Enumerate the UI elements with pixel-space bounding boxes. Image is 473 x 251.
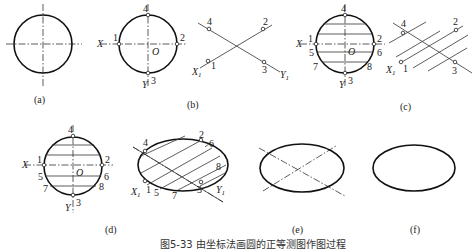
svg-text:1: 1 bbox=[113, 32, 118, 43]
svg-text:5: 5 bbox=[38, 171, 43, 182]
svg-text:5: 5 bbox=[154, 187, 159, 198]
panel-label-a: (a) bbox=[34, 94, 45, 106]
svg-text:X1: X1 bbox=[130, 186, 141, 199]
panel-d-circle: X 1 2 4 3 5 6 7 8 O Y (d) bbox=[21, 124, 117, 236]
panel-label-d: (d) bbox=[105, 224, 117, 236]
svg-text:3: 3 bbox=[197, 184, 202, 195]
svg-text:6: 6 bbox=[209, 138, 214, 149]
panel-label-e: (e) bbox=[292, 224, 303, 236]
svg-text:X: X bbox=[96, 38, 104, 49]
svg-text:4: 4 bbox=[143, 137, 148, 148]
figure-caption: 图5-33 由坐标法画圆的正等测图作图过程 bbox=[160, 236, 346, 251]
svg-text:6: 6 bbox=[377, 47, 382, 58]
svg-text:3: 3 bbox=[76, 197, 81, 208]
svg-text:3: 3 bbox=[151, 75, 156, 86]
svg-text:2: 2 bbox=[377, 33, 382, 44]
svg-text:1: 1 bbox=[37, 154, 42, 165]
svg-text:6: 6 bbox=[104, 171, 109, 182]
svg-text:4: 4 bbox=[68, 124, 73, 135]
panel-c-axes: 4 2 1 3 X1 (c) bbox=[385, 16, 472, 113]
svg-text:4: 4 bbox=[401, 18, 406, 29]
svg-text:Y1: Y1 bbox=[280, 69, 289, 82]
svg-text:X: X bbox=[21, 159, 29, 170]
svg-text:3: 3 bbox=[262, 64, 267, 75]
svg-text:2: 2 bbox=[105, 154, 110, 165]
svg-text:2: 2 bbox=[199, 129, 204, 140]
svg-text:Y: Y bbox=[65, 202, 72, 213]
panel-b-axes: 4 2 1 3 X1 Y1 (b) bbox=[187, 16, 289, 111]
svg-text:4: 4 bbox=[143, 3, 148, 14]
svg-text:3: 3 bbox=[348, 75, 353, 86]
svg-text:7: 7 bbox=[172, 190, 177, 201]
svg-text:1: 1 bbox=[211, 60, 216, 71]
svg-text:1: 1 bbox=[146, 184, 151, 195]
svg-text:7: 7 bbox=[43, 183, 48, 194]
panel-label-b: (b) bbox=[187, 99, 199, 111]
svg-text:8: 8 bbox=[99, 181, 104, 192]
svg-text:5: 5 bbox=[309, 47, 314, 58]
svg-text:2: 2 bbox=[263, 16, 268, 27]
panel-d-ellipse: 4 2 1 3 5 6 7 8 X1 Y1 bbox=[130, 129, 228, 202]
svg-text:3: 3 bbox=[452, 65, 457, 76]
svg-text:1: 1 bbox=[403, 63, 408, 74]
svg-text:1: 1 bbox=[308, 33, 313, 44]
panel-f: (f) bbox=[373, 145, 455, 236]
svg-text:7: 7 bbox=[313, 61, 318, 72]
svg-text:4: 4 bbox=[207, 16, 212, 27]
svg-text:8: 8 bbox=[367, 61, 372, 72]
svg-text:Y1: Y1 bbox=[216, 184, 225, 197]
svg-text:X1: X1 bbox=[385, 64, 396, 77]
svg-text:2: 2 bbox=[453, 16, 458, 27]
panel-label-f: (f) bbox=[410, 224, 420, 236]
svg-text:O: O bbox=[348, 46, 355, 57]
panel-label-c: (c) bbox=[400, 101, 411, 113]
panel-e: (e) bbox=[259, 144, 345, 236]
svg-text:O: O bbox=[152, 46, 159, 57]
svg-text:2: 2 bbox=[180, 32, 185, 43]
svg-text:X: X bbox=[295, 38, 303, 49]
svg-text:O: O bbox=[76, 167, 83, 178]
svg-text:4: 4 bbox=[341, 3, 346, 14]
panel-a: (a) bbox=[6, 4, 82, 106]
panel-c-circle: X 1 2 4 3 5 6 7 8 O Y bbox=[295, 3, 385, 90]
svg-text:8: 8 bbox=[216, 161, 221, 172]
panel-b-circle: X 1 2 4 3 O Y bbox=[96, 3, 186, 90]
